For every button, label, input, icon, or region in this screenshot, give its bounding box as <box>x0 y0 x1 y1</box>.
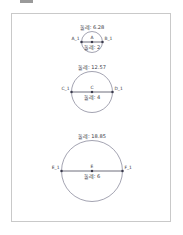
circle-3-right-point-label: F_1 <box>124 165 132 171</box>
geometry-applet: 둘레: 6.28 A_1 B_1 A 둘레: 2 둘레: 12.57 <box>0 0 183 235</box>
window-handle-nub <box>20 0 33 3</box>
figure-circle-1: 둘레: 6.28 A_1 B_1 A 둘레: 2 <box>72 24 113 53</box>
diagram-svg: 둘레: 6.28 A_1 B_1 A 둘레: 2 둘레: 12.57 <box>12 14 170 221</box>
figure-circle-2: 둘레: 12.57 C_1 D_1 C 둘레: 4 <box>62 64 123 113</box>
circle-2-center-point-label: C <box>90 85 93 90</box>
circle-3-left-point-label: E_1 <box>52 165 60 171</box>
circle-1-right-point-label: B_1 <box>104 36 112 42</box>
circle-1-diameter-label: 둘레: 2 <box>84 44 101 51</box>
circle-2-circumference-label: 둘레: 12.57 <box>78 64 106 71</box>
circle-2-right-point[interactable] <box>111 91 113 93</box>
circle-3-diameter-label: 둘레: 6 <box>84 173 101 180</box>
circle-2-right-point-label: D_1 <box>114 86 123 92</box>
circle-2-left-point[interactable] <box>70 91 72 93</box>
circle-3-right-point[interactable] <box>121 170 123 172</box>
circle-3-circumference-label: 둘레: 18.85 <box>78 133 106 140</box>
drawing-canvas[interactable]: 둘레: 6.28 A_1 B_1 A 둘레: 2 둘레: 12.57 <box>11 13 171 222</box>
figure-circle-3: 둘레: 18.85 E_1 F_1 E 둘레: 6 <box>52 133 132 202</box>
circle-2-diameter-label: 둘레: 4 <box>84 94 101 101</box>
circle-1-left-point[interactable] <box>80 41 82 43</box>
circle-1-right-point[interactable] <box>101 41 103 43</box>
circle-1-circumference-label: 둘레: 6.28 <box>80 24 105 31</box>
circle-2-left-point-label: C_1 <box>62 86 70 92</box>
circle-1-center-point-label: A <box>90 35 93 40</box>
circle-3-left-point[interactable] <box>60 170 62 172</box>
circle-1-left-point-label: A_1 <box>72 36 80 42</box>
circle-3-center-point-label: E <box>91 164 94 169</box>
